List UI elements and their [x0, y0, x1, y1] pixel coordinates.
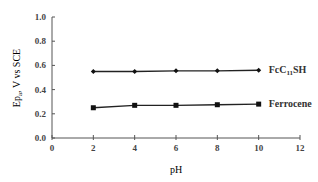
axes: 0.00.20.40.60.81.0024681012: [35, 12, 305, 153]
series-label: FcC11SH: [269, 64, 307, 77]
x-tick-label: 12: [296, 143, 306, 153]
series-fcc11sh: FcC11SH: [91, 64, 307, 77]
data-point-square: [91, 105, 96, 110]
x-tick-label: 10: [254, 143, 264, 153]
y-tick-label: 0.2: [35, 109, 47, 119]
y-tick-label: 0.6: [35, 60, 47, 70]
data-point-diamond: [215, 68, 220, 73]
data-point-diamond: [256, 68, 261, 73]
data-point-diamond: [174, 68, 179, 73]
series-ferrocene: Ferrocene: [91, 98, 313, 110]
x-tick-label: 2: [91, 143, 96, 153]
data-point-square: [256, 102, 261, 107]
y-tick-label: 1.0: [35, 12, 47, 22]
x-axis-label: pH: [170, 164, 182, 175]
data-point-diamond: [91, 69, 96, 74]
x-tick-label: 8: [215, 143, 220, 153]
data-point-square: [215, 102, 220, 107]
x-tick-label: 6: [174, 143, 179, 153]
series: FcC11SHFerrocene: [91, 64, 313, 110]
data-point-square: [132, 103, 137, 108]
y-tick-label: 0.8: [35, 36, 47, 46]
chart: 0.00.20.40.60.81.0024681012 FcC11SHFerro…: [0, 0, 318, 182]
x-tick-label: 0: [50, 143, 55, 153]
series-label: Ferrocene: [269, 98, 313, 109]
y-tick-label: 0.0: [35, 133, 47, 143]
y-axis-label: Epa, V vs SCE: [11, 49, 24, 107]
data-point-diamond: [132, 69, 137, 74]
x-tick-label: 4: [132, 143, 137, 153]
data-point-square: [174, 103, 179, 108]
y-tick-label: 0.4: [35, 85, 47, 95]
